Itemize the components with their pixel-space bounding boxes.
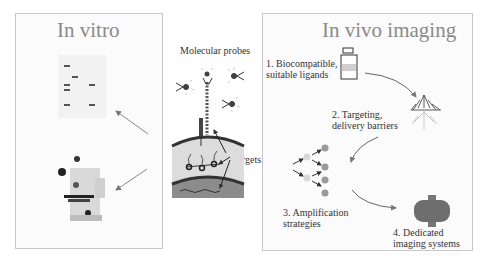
gel-blot-icon (58, 55, 106, 118)
amplification-icon (293, 145, 329, 197)
diagram-graphics (0, 0, 483, 263)
cell-with-probes-icon (172, 72, 244, 199)
microscope-icon (58, 156, 105, 221)
vasculature-icon (411, 95, 441, 130)
probe-icon (176, 72, 244, 108)
vial-icon (341, 48, 357, 79)
scanner-icon (414, 195, 450, 227)
